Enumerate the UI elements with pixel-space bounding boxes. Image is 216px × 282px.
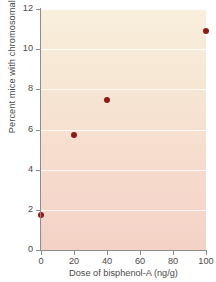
y-tick-label: 12 <box>0 4 33 13</box>
x-tick-mark <box>74 251 75 255</box>
x-tick-label: 0 <box>26 257 56 266</box>
data-point <box>203 28 209 34</box>
x-tick-label: 60 <box>125 257 155 266</box>
data-point <box>71 132 77 138</box>
gridline <box>41 49 206 50</box>
plot-area <box>41 9 206 250</box>
y-tick-label: 10 <box>0 44 33 53</box>
x-tick-mark <box>140 251 141 255</box>
gridline <box>41 9 206 10</box>
y-axis-line <box>40 8 41 251</box>
y-tick-label: 2 <box>0 205 33 214</box>
y-tick-mark <box>36 130 40 131</box>
scatter-chart-figure: Percent mice with chromosomal problems 0… <box>0 0 216 282</box>
gridline <box>41 130 206 131</box>
x-tick-label: 40 <box>92 257 122 266</box>
x-tick-label: 20 <box>59 257 89 266</box>
x-tick-mark <box>107 251 108 255</box>
y-tick-label: 4 <box>0 165 33 174</box>
y-tick-mark <box>36 170 40 171</box>
y-tick-label: 0 <box>0 245 33 254</box>
gridline <box>41 89 206 90</box>
y-tick-mark <box>36 250 40 251</box>
y-tick-label: 8 <box>0 84 33 93</box>
y-axis-title: Percent mice with chromosomal problems <box>7 0 23 161</box>
x-axis-title: Dose of bisphenol-A (ng/g) <box>41 268 206 278</box>
x-tick-mark <box>173 251 174 255</box>
x-axis-line <box>40 250 207 251</box>
y-tick-mark <box>36 89 40 90</box>
y-tick-mark <box>36 49 40 50</box>
x-tick-mark <box>206 251 207 255</box>
x-tick-label: 80 <box>158 257 188 266</box>
x-tick-mark <box>41 251 42 255</box>
gridline <box>41 170 206 171</box>
y-tick-mark <box>36 9 40 10</box>
y-tick-mark <box>36 210 40 211</box>
gridline <box>41 210 206 211</box>
data-point <box>38 212 44 218</box>
y-tick-label: 6 <box>0 125 33 134</box>
x-tick-label: 100 <box>191 257 216 266</box>
